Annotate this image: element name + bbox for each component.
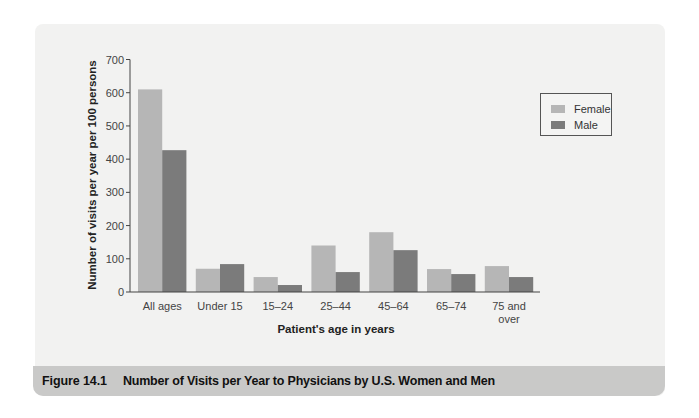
y-axis: 0100200300400500600700 bbox=[106, 54, 130, 299]
y-tick-label: 400 bbox=[106, 153, 124, 165]
y-tick-label: 0 bbox=[118, 286, 124, 298]
legend-label-male: Male bbox=[574, 119, 598, 131]
x-tick-label: 25–44 bbox=[320, 300, 351, 312]
x-tick-label: Under 15 bbox=[197, 300, 242, 312]
bar-chart: 0100200300400500600700 All agesUnder 151… bbox=[0, 0, 699, 418]
bar-male bbox=[278, 285, 302, 292]
bar-female bbox=[196, 269, 220, 292]
bar-male bbox=[336, 272, 360, 292]
y-tick-label: 700 bbox=[106, 54, 124, 66]
legend: Female Male bbox=[540, 93, 612, 136]
figure-number: Figure 14.1 bbox=[42, 374, 107, 388]
x-tick-label: 15–24 bbox=[263, 300, 294, 312]
legend-item-male: Male bbox=[551, 119, 598, 131]
bar-male bbox=[451, 274, 475, 292]
figure-caption: Figure 14.1 Number of Visits per Year to… bbox=[33, 366, 665, 396]
figure-title: Number of Visits per Year to Physicians … bbox=[123, 374, 495, 388]
x-tick-label: 75 and bbox=[492, 300, 526, 312]
legend-swatch-female bbox=[551, 105, 565, 113]
x-tick-label: All ages bbox=[143, 300, 183, 312]
bar-female bbox=[138, 89, 162, 292]
y-tick-label: 600 bbox=[106, 87, 124, 99]
y-tick-label: 100 bbox=[106, 253, 124, 265]
x-tick-label: 65–74 bbox=[436, 300, 467, 312]
x-axis-title: Patient's age in years bbox=[277, 323, 394, 335]
legend-swatch-male bbox=[551, 121, 565, 129]
x-tick-label: over bbox=[498, 313, 520, 325]
legend-item-female: Female bbox=[551, 103, 611, 115]
x-tick-label: 45–64 bbox=[378, 300, 409, 312]
bar-male bbox=[162, 150, 186, 292]
y-axis-title: Number of visits per year per 100 person… bbox=[86, 60, 98, 289]
bar-female bbox=[254, 277, 278, 292]
bar-male bbox=[393, 250, 417, 292]
bar-female bbox=[311, 246, 335, 293]
y-tick-label: 500 bbox=[106, 120, 124, 132]
x-axis: All agesUnder 1515–2425–4445–6465–7475 a… bbox=[130, 292, 540, 325]
bar-male bbox=[509, 277, 533, 292]
bar-male bbox=[220, 264, 244, 292]
bar-female bbox=[427, 269, 451, 292]
bar-female bbox=[485, 266, 509, 292]
y-tick-label: 300 bbox=[106, 186, 124, 198]
bars bbox=[138, 89, 533, 292]
y-tick-label: 200 bbox=[106, 220, 124, 232]
legend-label-female: Female bbox=[574, 103, 611, 115]
bar-female bbox=[369, 232, 393, 292]
